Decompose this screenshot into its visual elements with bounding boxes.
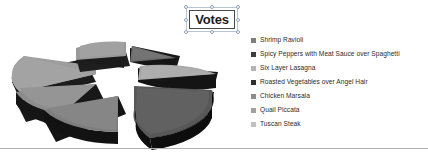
pie-slice-shrimp-ravioli[interactable] [76, 42, 130, 72]
legend-item[interactable]: Spicy Peppers with Meat Sauce over Spagh… [251, 47, 428, 61]
chart-title-container[interactable]: Votes [186, 7, 238, 32]
legend-item-label: Quail Piccata [260, 107, 300, 114]
legend-swatch-icon [251, 122, 256, 127]
chart-screenshot: Votes Shrimp Ravioli Spicy Peppers with … [0, 0, 428, 158]
legend-item[interactable]: Shrimp Ravioli [251, 33, 428, 47]
resize-handle-bottom-left[interactable] [184, 30, 188, 34]
resize-handle-bottom-right[interactable] [236, 30, 240, 34]
legend-item-label: Chicken Marsala [260, 93, 310, 100]
chart-title-box[interactable]: Votes [189, 10, 235, 29]
legend-swatch-icon [251, 38, 256, 43]
legend-item-label: Roasted Vegetables over Angel Hair [260, 79, 368, 86]
legend-item-label: Shrimp Ravioli [260, 37, 303, 44]
legend-swatch-icon [251, 108, 256, 113]
legend-item[interactable]: Chicken Marsala [251, 89, 428, 103]
legend-item[interactable]: Roasted Vegetables over Angel Hair [251, 75, 428, 89]
resize-handle-bottom-center[interactable] [210, 30, 214, 34]
legend-item-label: Six Layer Lasagna [260, 65, 315, 72]
legend-swatch-icon [251, 80, 256, 85]
legend-item-label: Tuscan Steak [260, 121, 301, 128]
resize-handle-top-center[interactable] [210, 5, 214, 9]
resize-handle-top-right[interactable] [236, 5, 240, 9]
pie-slice-six-layer-lasagna[interactable] [138, 65, 218, 90]
pie-slice-roasted-vegetables[interactable] [133, 86, 214, 150]
bottom-divider [0, 148, 428, 149]
legend-swatch-icon [251, 52, 256, 57]
legend-swatch-icon [251, 66, 256, 71]
resize-handle-top-left[interactable] [184, 5, 188, 9]
resize-handle-middle-right[interactable] [236, 18, 240, 22]
pie-chart-svg [0, 22, 248, 152]
chart-legend[interactable]: Shrimp Ravioli Spicy Peppers with Meat S… [251, 33, 428, 131]
legend-swatch-icon [251, 94, 256, 99]
page-title: Votes [195, 13, 228, 26]
legend-item[interactable]: Tuscan Steak [251, 117, 428, 131]
legend-item-label: Spicy Peppers with Meat Sauce over Spagh… [260, 51, 400, 58]
pie-chart[interactable] [0, 22, 248, 152]
legend-item[interactable]: Six Layer Lasagna [251, 61, 428, 75]
resize-handle-middle-left[interactable] [184, 18, 188, 22]
legend-item[interactable]: Quail Piccata [251, 103, 428, 117]
